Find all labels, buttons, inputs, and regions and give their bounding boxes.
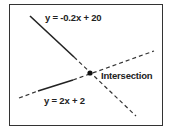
line-2-dashed-left <box>19 91 38 98</box>
line-1-label: y = -0.2x + 20 <box>45 12 101 23</box>
intersection-label: Intersection <box>101 70 152 81</box>
line-2-label: y = 2x + 2 <box>44 95 85 106</box>
intersection-point-icon <box>87 70 92 75</box>
line-1-dashed <box>74 57 136 116</box>
line-2-solid <box>38 80 73 91</box>
